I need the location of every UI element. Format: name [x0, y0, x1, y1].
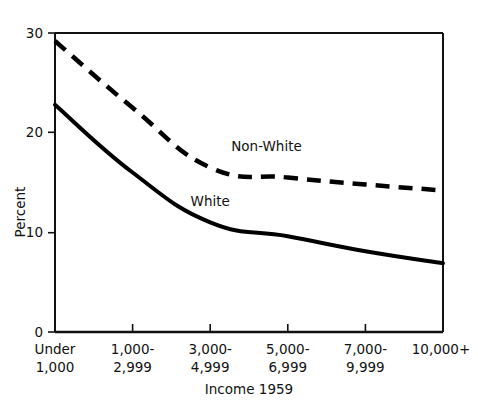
plot-frame	[55, 33, 443, 332]
x-category-label-5-line1: 10,000+	[412, 341, 471, 357]
y-axis-title: Percent	[12, 187, 28, 238]
x-category-label-0-line2: 1,000	[36, 359, 75, 375]
x-category-label-2-line2: 4,999	[191, 359, 230, 375]
x-category-label-1-line1: 1,000-	[111, 341, 155, 357]
series-label-non-white: Non-White	[231, 138, 302, 154]
y-axis-ticks	[48, 33, 55, 332]
x-category-label-3-line2: 6,999	[268, 359, 307, 375]
x-category-label-3-line1: 5,000-	[266, 341, 310, 357]
x-axis-title: Income 1959	[205, 381, 293, 397]
line-chart: 30 20 10 0 Percent Under 1,000 1,000- 2,…	[0, 0, 478, 405]
x-category-label-4-line1: 7,000-	[344, 341, 388, 357]
x-category-label-2-line1: 3,000-	[188, 341, 232, 357]
chart-figure: 30 20 10 0 Percent Under 1,000 1,000- 2,…	[0, 0, 478, 405]
y-tick-label-20: 20	[26, 124, 43, 140]
series-label-white: White	[191, 193, 230, 209]
y-tick-label-30: 30	[26, 25, 43, 41]
y-tick-label-10: 10	[26, 224, 43, 240]
series-line-non-white	[55, 41, 443, 191]
x-category-label-1-line2: 2,999	[113, 359, 152, 375]
y-tick-label-0: 0	[34, 324, 43, 340]
x-category-label-0-line1: Under	[35, 341, 76, 357]
x-category-label-4-line2: 9,999	[346, 359, 385, 375]
